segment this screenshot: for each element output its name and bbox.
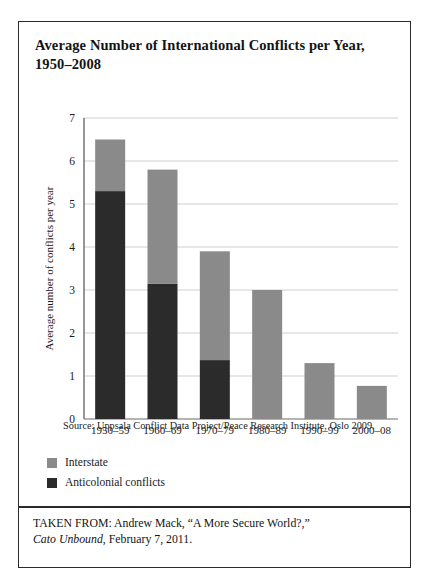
y-tick-label: 4 xyxy=(69,241,75,253)
attribution-source-title: Cato Unbound xyxy=(33,532,103,546)
figure-card: Average Number of International Conflict… xyxy=(18,21,411,568)
chart-source-note: Source: Uppsala Conflict Data Project/Pe… xyxy=(63,419,403,432)
bar-segment-anticolonial xyxy=(148,284,178,419)
bar-segment-anticolonial xyxy=(200,360,230,419)
legend-swatch-anticolonial xyxy=(47,478,57,488)
chart-gridlines xyxy=(84,118,398,419)
y-tick-label: 3 xyxy=(69,284,75,296)
y-axis-title-text: Average number of conflicts per year xyxy=(43,186,55,350)
legend-item-interstate: Interstate xyxy=(47,454,347,471)
attribution-line-1: TAKEN FROM: Andrew Mack, “A More Secure … xyxy=(33,516,310,530)
chart-y-tick-labels: 01234567 xyxy=(69,112,75,425)
legend-label-interstate: Interstate xyxy=(65,456,108,469)
bar-segment-interstate xyxy=(357,386,387,419)
figure-attribution: TAKEN FROM: Andrew Mack, “A More Secure … xyxy=(33,515,401,547)
bar-segment-interstate xyxy=(305,363,335,419)
bar-segment-interstate xyxy=(200,251,230,360)
legend-swatch-interstate xyxy=(47,458,57,468)
chart-plot-area: 01234567 1950–591960–691970–791980–89199… xyxy=(19,22,412,442)
card-divider xyxy=(19,506,410,508)
legend-label-anticolonial: Anticolonial conflicts xyxy=(65,476,165,489)
legend-item-anticolonial: Anticolonial conflicts xyxy=(47,474,347,491)
chart-y-axis-title: Average number of conflicts per year xyxy=(43,186,55,350)
bar-segment-anticolonial xyxy=(95,191,125,419)
y-tick-label: 2 xyxy=(69,327,75,339)
bar-segment-interstate xyxy=(95,140,125,192)
bar-segment-interstate xyxy=(148,170,178,284)
chart-legend: Interstate Anticolonial conflicts xyxy=(47,454,347,494)
bar-segment-interstate xyxy=(252,290,282,419)
bar-chart-svg: 01234567 1950–591960–691970–791980–89199… xyxy=(19,22,412,442)
chart-bars xyxy=(95,140,387,420)
y-tick-label: 5 xyxy=(69,198,75,210)
y-tick-label: 1 xyxy=(69,370,75,382)
y-tick-label: 6 xyxy=(69,155,75,167)
attribution-line-2: , February 7, 2011. xyxy=(103,532,192,546)
y-tick-label: 7 xyxy=(69,112,75,124)
